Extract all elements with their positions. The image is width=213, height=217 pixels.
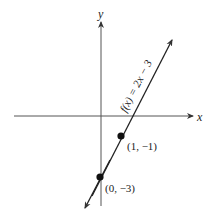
graph: x y (1, −1) (0, −3) f(x) = 2x − 3 bbox=[0, 0, 213, 217]
y-axis-label: y bbox=[97, 7, 104, 21]
x-axis-label: x bbox=[196, 110, 203, 124]
point-2 bbox=[96, 173, 103, 180]
point-2-label: (0, −3) bbox=[105, 182, 135, 195]
function-label: f(x) = 2x − 3 bbox=[117, 57, 155, 114]
point-1-label: (1, −1) bbox=[127, 140, 157, 153]
point-1 bbox=[117, 132, 124, 139]
